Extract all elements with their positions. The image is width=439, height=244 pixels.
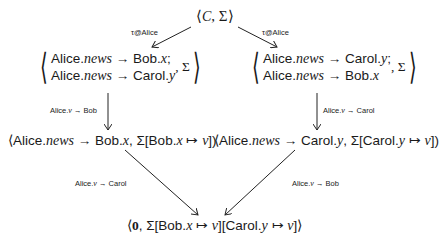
angle-close: ⟩ [228, 8, 234, 24]
edge-bottom-left [125, 150, 198, 215]
label-mid-left: Alice.v → Bob [50, 106, 97, 115]
label-top-left: τ@Alice [131, 28, 158, 37]
t: , Σ[Carol. [343, 133, 399, 148]
label-bottom-left: Alice.v → Carol [75, 179, 127, 188]
line-1: Alice.news → Carol.y; [263, 51, 391, 66]
zero: 0 [132, 218, 139, 233]
t: ↦ [192, 218, 212, 233]
node-right-pair: ⟨ Alice.news → Carol.y; Alice.news → Bob… [249, 50, 420, 84]
edge-top-left [152, 27, 191, 47]
t: news [252, 133, 280, 148]
t: ]) [431, 133, 439, 148]
t: news [296, 51, 324, 66]
label-text: → Carol [345, 106, 375, 115]
angle-open-large: ⟨ [40, 52, 48, 82]
angle-close-large: ⟩ [193, 52, 201, 82]
t: news [296, 68, 324, 83]
sep: , [211, 8, 219, 24]
t: Alice. [51, 51, 84, 66]
label-text: → Carol [97, 179, 127, 188]
label-text: Alice. [75, 179, 93, 188]
t: ]⟩ [294, 218, 303, 233]
label-text: → Bob [314, 179, 339, 188]
t: news [84, 51, 112, 66]
t: ↦ [183, 133, 203, 148]
t: Alice. [51, 68, 84, 83]
t: ⟨Alice. [214, 133, 252, 148]
angle-close-large: ⟩ [409, 52, 417, 82]
angle-open-large: ⟨ [252, 52, 260, 82]
node-right-state: ⟨Alice.news → Carol.y, Σ[Carol.y ↦ v]) [214, 132, 439, 149]
sigma: , Σ [175, 59, 190, 75]
t: , Σ[Bob. [139, 218, 186, 233]
label-mid-right: Alice.v → Carol [323, 106, 375, 115]
sigma: , Σ [391, 59, 406, 75]
t: → Carol. [324, 51, 381, 66]
label-bottom-right: Alice.v → Bob [292, 179, 339, 188]
node-left-pair: ⟨ Alice.news → Bob.x; Alice.news → Carol… [37, 50, 204, 84]
label-text: Alice. [292, 179, 310, 188]
t: → Carol. [280, 133, 337, 148]
t: news [84, 68, 112, 83]
label-text: Alice. [50, 106, 68, 115]
line-1: Alice.news → Bob.x; [51, 51, 171, 66]
t: → Carol. [112, 68, 169, 83]
t: Alice. [263, 51, 296, 66]
label-text: → Bob [72, 106, 97, 115]
node-initial: ⟨C, Σ⟩ [196, 7, 234, 25]
sigma: Σ [219, 8, 228, 24]
t: ↦ [405, 133, 425, 148]
line-2: Alice.news → Carol.y [51, 68, 175, 83]
t: ][Carol. [218, 218, 262, 233]
t: → Bob. [112, 51, 161, 66]
t: → Bob. [324, 68, 373, 83]
t: x [373, 68, 379, 83]
label-top-right: τ@Alice [262, 28, 289, 37]
t: ⟨Alice. [8, 133, 46, 148]
node-left-state: ⟨Alice.news → Bob.x, Σ[Bob.x ↦ v]) [8, 132, 217, 149]
t: → Bob. [74, 133, 123, 148]
edge-bottom-right [225, 150, 295, 215]
label-text: Alice. [323, 106, 341, 115]
t: Alice. [263, 68, 296, 83]
t: news [46, 133, 74, 148]
config-c: C [202, 9, 211, 24]
node-final: ⟨0, Σ[Bob.x ↦ v][Carol.y ↦ v]⟩ [127, 217, 302, 234]
line-2: Alice.news → Bob.x [263, 68, 379, 83]
t: ↦ [268, 218, 288, 233]
t: , Σ[Bob. [129, 133, 176, 148]
t: ; [167, 51, 171, 66]
